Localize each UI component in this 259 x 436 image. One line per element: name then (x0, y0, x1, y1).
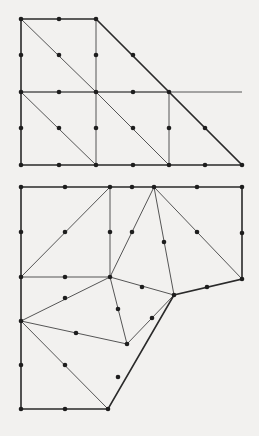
mesh-node (108, 230, 113, 235)
mesh-node (240, 185, 245, 190)
mesh-node (19, 17, 24, 22)
mesh-node (116, 375, 121, 380)
mesh-node (116, 307, 121, 312)
mesh-node (19, 407, 24, 412)
mesh-node (19, 90, 24, 95)
mesh-node (131, 53, 136, 58)
mesh-node (130, 230, 135, 235)
mesh-node (74, 331, 79, 336)
mesh-node (152, 185, 157, 190)
mesh-node (94, 126, 99, 131)
mesh-node (131, 90, 136, 95)
mesh-node (195, 185, 200, 190)
mesh-node (63, 296, 68, 301)
mesh-node (205, 285, 210, 290)
mesh-node (167, 126, 172, 131)
mesh-node (63, 185, 68, 190)
mesh-node (63, 275, 68, 280)
mesh-node (63, 407, 68, 412)
mesh-node (131, 163, 136, 168)
mesh-node (240, 163, 245, 168)
finite-element-mesh-diagram (0, 0, 259, 436)
mesh-node (131, 126, 136, 131)
mesh-node (19, 53, 24, 58)
mesh-node (106, 407, 111, 412)
mesh-node (94, 163, 99, 168)
mesh-node (94, 53, 99, 58)
mesh-node (63, 363, 68, 368)
mesh-node (167, 90, 172, 95)
mesh-node (167, 163, 172, 168)
mesh-node (195, 230, 200, 235)
mesh-node (57, 126, 62, 131)
mesh-node (203, 126, 208, 131)
mesh-node (162, 240, 167, 245)
mesh-node (240, 277, 245, 282)
mesh-node (130, 185, 135, 190)
mesh-node (19, 230, 24, 235)
mesh-node (19, 163, 24, 168)
mesh-node (240, 231, 245, 236)
mesh-node (203, 163, 208, 168)
mesh-boundary (21, 187, 242, 409)
mesh-node (19, 363, 24, 368)
unstructured-triangular-mesh (19, 185, 245, 412)
mesh-node (94, 90, 99, 95)
mesh-node (19, 275, 24, 280)
mesh-node (19, 185, 24, 190)
mesh-node (19, 126, 24, 131)
mesh-node (108, 185, 113, 190)
mesh-node (125, 342, 130, 347)
mesh-node (94, 17, 99, 22)
mesh-node (140, 285, 145, 290)
mesh-node (63, 230, 68, 235)
mesh-node (108, 275, 113, 280)
mesh-node (57, 163, 62, 168)
mesh-node (19, 319, 24, 324)
structured-triangular-mesh (19, 17, 245, 168)
mesh-node (57, 53, 62, 58)
mesh-node (150, 316, 155, 321)
mesh-node (57, 17, 62, 22)
mesh-node (172, 293, 177, 298)
mesh-node (57, 90, 62, 95)
